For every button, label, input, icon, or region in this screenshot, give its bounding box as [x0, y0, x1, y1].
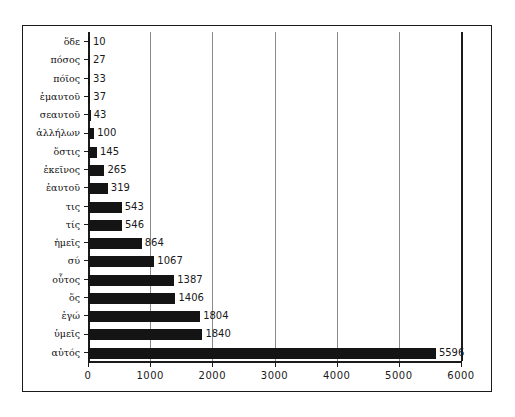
x-tick-label: 4000	[323, 370, 350, 381]
bar[interactable]	[88, 293, 175, 304]
x-tick-label: 1000	[136, 370, 163, 381]
x-tick-label: 6000	[447, 370, 474, 381]
x-tick-4000	[337, 362, 338, 367]
category-label: ὑμεῖς	[54, 327, 80, 341]
bar[interactable]	[88, 147, 97, 158]
category-label: ἐμαυτοῦ	[40, 90, 80, 104]
bar-value-label: 864	[145, 236, 164, 250]
bar-value-label: 33	[93, 72, 106, 86]
bar[interactable]	[88, 165, 104, 176]
bar-value-label: 543	[125, 200, 144, 214]
bar[interactable]	[88, 275, 174, 286]
category-label: ἀλλήλων	[36, 126, 80, 140]
bar[interactable]	[88, 256, 154, 267]
gridline-6000	[461, 32, 463, 361]
bar-value-label: 1840	[205, 327, 230, 341]
category-label: πόσος	[51, 53, 81, 67]
x-tick-2000	[212, 362, 213, 367]
category-label: ὅδε	[64, 35, 80, 49]
bar-value-label: 5596	[439, 346, 464, 360]
bar[interactable]	[88, 183, 108, 194]
x-tick-5000	[399, 362, 400, 367]
category-label: τις	[66, 200, 80, 214]
category-label: ἑαυτοῦ	[46, 181, 80, 195]
x-tick-label: 2000	[199, 370, 226, 381]
bar-value-label: 1067	[157, 254, 182, 268]
category-label: σεαυτοῦ	[40, 108, 80, 122]
bar-value-label: 319	[111, 181, 130, 195]
category-label: σύ	[68, 254, 80, 268]
bar-value-label: 100	[97, 126, 116, 140]
category-label: ὅς	[69, 291, 80, 305]
category-label: τίς	[66, 218, 80, 232]
bar[interactable]	[88, 329, 202, 340]
bar-value-label: 43	[94, 108, 107, 122]
category-label: πόϊος	[53, 72, 80, 86]
x-tick-label: 3000	[261, 370, 288, 381]
bar[interactable]	[88, 74, 90, 85]
category-label-holder: αὐτός	[26, 343, 84, 364]
bar-value-label: 37	[93, 90, 106, 104]
bar-value-label: 10	[93, 35, 106, 49]
bar[interactable]	[88, 220, 122, 231]
bar[interactable]	[88, 311, 200, 322]
bar[interactable]	[88, 202, 122, 213]
bar-value-label: 1387	[177, 273, 202, 287]
bar[interactable]	[88, 128, 94, 139]
bar[interactable]	[88, 348, 436, 359]
category-label: ὅστις	[53, 145, 80, 159]
chart-frame: ὅδε10πόσος27πόϊος33ἐμαυτοῦ37σεαυτοῦ43ἀλλ…	[22, 25, 492, 392]
category-label: ἡμεῖς	[54, 236, 80, 250]
x-tick-6000	[461, 362, 462, 367]
category-label: οὗτος	[52, 273, 80, 287]
category-label: ἐκεῖνος	[44, 163, 81, 177]
bar[interactable]	[88, 37, 90, 48]
bar[interactable]	[88, 92, 90, 103]
x-tick-0	[88, 362, 89, 367]
bar-value-label: 1406	[178, 291, 203, 305]
x-tick-label: 5000	[385, 370, 412, 381]
bar-value-label: 1804	[203, 309, 228, 323]
bar[interactable]	[88, 110, 91, 121]
x-tick-label: 0	[85, 370, 92, 381]
plot-area: ὅδε10πόσος27πόϊος33ἐμαυτοῦ37σεαυτοῦ43ἀλλ…	[88, 32, 461, 361]
x-tick-1000	[150, 362, 151, 367]
bar-value-label: 27	[93, 53, 106, 67]
category-label: ἐγώ	[61, 309, 80, 323]
bar[interactable]	[88, 55, 90, 66]
bar[interactable]	[88, 238, 142, 249]
category-label: αὐτός	[52, 346, 81, 360]
x-tick-3000	[275, 362, 276, 367]
bar-value-label: 265	[107, 163, 126, 177]
bar-value-label: 546	[125, 218, 144, 232]
bar-value-label: 145	[100, 145, 119, 159]
